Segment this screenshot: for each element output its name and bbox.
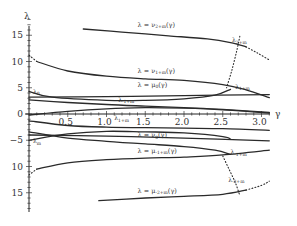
curve-label: λ = ν2+m(γ) [138, 21, 176, 30]
curve-label: λ = ν1+m(γ) [138, 67, 176, 76]
y-tick-label: −5 [10, 135, 24, 145]
curve--2-m- [83, 29, 246, 47]
curves [29, 29, 269, 201]
x-tick-label: 2.0 [175, 117, 190, 127]
y-axis-name: λ [24, 11, 30, 21]
y-tick-label: 5 [17, 83, 23, 93]
curve-label: λ0 [33, 88, 40, 97]
x-tick-label: 1.5 [136, 117, 151, 127]
curve-label: λ-1+m [231, 148, 248, 157]
curve-label: λ = μ-1+m(γ) [138, 147, 178, 156]
curve-label: λ = μ0(γ) [138, 81, 168, 90]
y-tick-label: 10 [12, 57, 24, 67]
curve-label: λ = μ-2+m(γ) [138, 187, 178, 196]
y-tick-label: 10 [12, 162, 24, 172]
curve--2-m-dotted-tail [246, 181, 269, 190]
curve--2-m-dotted-tail [246, 47, 269, 60]
x-tick-label: 1.0 [97, 117, 112, 127]
curve-label: λ = ν0(γ) [138, 131, 168, 140]
x-tick-label: 2.5 [214, 117, 229, 127]
curve-label: λ-1+m [118, 96, 135, 105]
y-tick-label: 15 [12, 30, 24, 40]
x-tick-label: 3.0 [252, 117, 267, 127]
y-tick-label: 15 [12, 188, 24, 198]
curve--0-line [29, 95, 269, 98]
curve-label: λ-2+m [228, 176, 245, 185]
origin-label: 0 [17, 109, 23, 119]
x-axis-name: γ [275, 109, 280, 119]
curve-label: λ1+m [235, 83, 250, 92]
eigenvalue-curves-chart: 0.51.01.52.02.53.015105−510150λγ λ = ν2+… [0, 0, 297, 226]
